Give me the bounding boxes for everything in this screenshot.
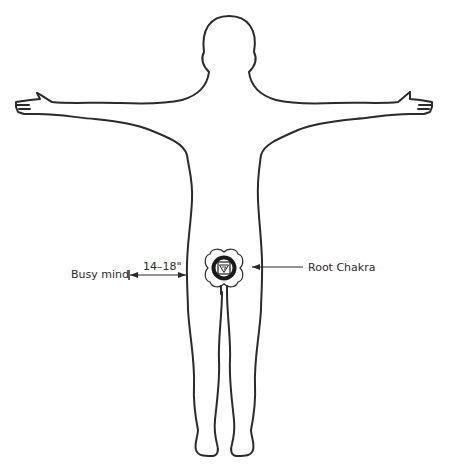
right-arm-upper — [276, 92, 410, 104]
left-fingers — [17, 105, 30, 109]
head-outline — [182, 16, 276, 100]
chakra-stem — [221, 286, 227, 294]
right-arm-lower — [258, 114, 410, 310]
root-chakra-label: Root Chakra — [308, 262, 375, 273]
root-chakra-pointer-arrow — [252, 264, 303, 270]
left-leg-outer — [188, 310, 218, 456]
left-arm-upper — [37, 93, 182, 104]
right-hand — [410, 92, 432, 114]
right-leg-outer — [231, 310, 261, 456]
right-leg-inner — [227, 292, 234, 420]
busy-mind-label: Busy mind — [71, 269, 129, 280]
right-fingers — [418, 105, 431, 109]
distance-label: 14–18" — [143, 261, 182, 272]
body-outline-figure: | body --> — [0, 0, 449, 474]
root-chakra-lotus-icon — [205, 249, 243, 287]
left-hand — [16, 93, 40, 114]
left-leg-inner — [215, 292, 222, 420]
body-diagram: | body --> Busy mind 14–18" Root Chakra — [0, 0, 449, 474]
